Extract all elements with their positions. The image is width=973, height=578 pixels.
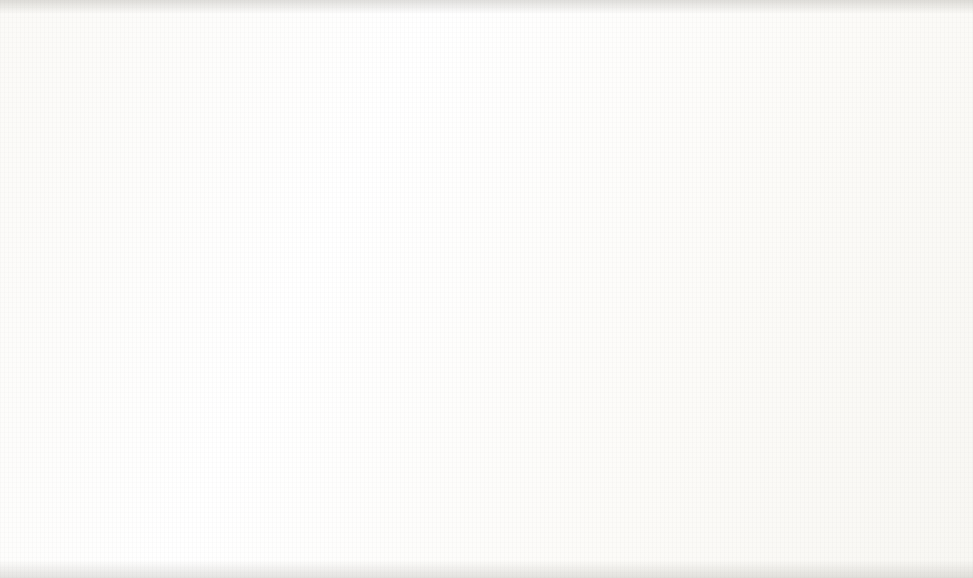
square-marker-solid-line-icon <box>631 492 707 510</box>
x-tick-label: Practice 1 <box>530 437 720 462</box>
y-tick-label: 7.00 <box>80 360 170 381</box>
legend-label: Highlighting <box>716 488 826 513</box>
y-tick-mark <box>178 319 187 321</box>
scan-edge-shadow-bottom <box>0 560 973 578</box>
y-tick-label: 10.00 <box>80 202 170 223</box>
triangle-marker-dashed-line-icon <box>349 492 425 510</box>
x-tick-label: Practice 2 <box>705 437 895 462</box>
scanned-figure-page: Stress andPerceivedInvolveControlTension… <box>0 0 973 578</box>
y-tick-mark <box>178 266 187 268</box>
y-tick-label: 6.00 <box>80 413 170 434</box>
circle-marker-solid-line-icon <box>152 492 228 510</box>
y-tick-label: 11.00 <box>80 149 170 170</box>
chart-legend: ControlMassed ExposureHighlighting <box>35 488 943 513</box>
y-tick-mark <box>178 108 187 110</box>
x-tick-label: Training 1 <box>180 437 370 462</box>
legend-label: Control <box>237 488 303 513</box>
circle-data-marker <box>183 493 197 507</box>
legend-entry-massed-exposure[interactable]: Massed Exposure <box>349 488 586 513</box>
y-tick-mark <box>178 213 187 215</box>
y-axis-label: Means <box>35 158 61 298</box>
scan-edge-shadow-top <box>0 0 973 14</box>
y-tick-label: 9.00 <box>80 255 170 276</box>
y-tick-mark <box>178 160 187 162</box>
y-tick-mark <box>178 424 187 426</box>
y-tick-label: 12.00 <box>80 97 170 118</box>
square-data-marker <box>662 493 676 507</box>
x-tick-label: Training 2 <box>355 437 545 462</box>
legend-label: Massed Exposure <box>434 488 586 513</box>
y-tick-mark <box>178 371 187 373</box>
legend-entry-highlighting[interactable]: Highlighting <box>631 488 826 513</box>
legend-entry-control[interactable]: Control <box>152 488 303 513</box>
chart-title: Worry <box>0 38 973 64</box>
figure-border <box>35 27 943 544</box>
y-tick-label: 8.00 <box>80 308 170 329</box>
x-axis-line <box>186 425 889 427</box>
bleed-through-text: ratings of the <box>30 550 130 572</box>
